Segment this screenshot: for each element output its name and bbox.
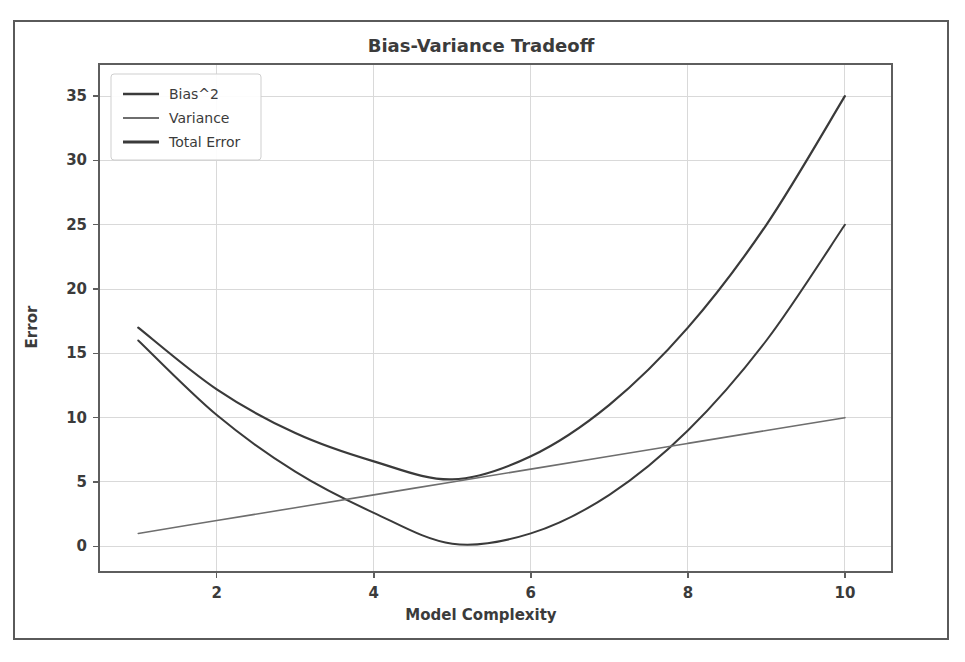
series-line-bias-2	[138, 225, 845, 545]
legend-label-2: Total Error	[168, 134, 241, 150]
y-tick-label: 30	[66, 151, 87, 169]
x-tick-label: 2	[212, 584, 222, 602]
legend-label-1: Variance	[169, 110, 229, 126]
figure-frame: 05101520253035246810 Bias^2VarianceTotal…	[13, 20, 949, 640]
y-axis-label: Error	[23, 305, 41, 348]
legend-label-0: Bias^2	[169, 86, 219, 102]
x-tick-label: 10	[834, 584, 855, 602]
bias-variance-chart: 05101520253035246810 Bias^2VarianceTotal…	[15, 22, 947, 638]
y-tick-label: 5	[77, 473, 87, 491]
y-tick-label: 35	[66, 87, 87, 105]
y-tick-label: 15	[66, 344, 87, 362]
x-axis-label: Model Complexity	[405, 606, 556, 624]
chart-title: Bias-Variance Tradeoff	[368, 35, 595, 56]
chart-ticks: 05101520253035246810	[66, 87, 855, 602]
chart-legend[interactable]: Bias^2VarianceTotal Error	[111, 74, 261, 160]
y-tick-label: 25	[66, 216, 87, 234]
y-tick-label: 0	[77, 537, 87, 555]
x-tick-label: 6	[526, 584, 536, 602]
y-tick-label: 10	[66, 409, 87, 427]
chart-series	[138, 96, 845, 545]
x-tick-label: 4	[369, 584, 379, 602]
y-tick-label: 20	[66, 280, 87, 298]
series-line-variance	[138, 418, 845, 534]
x-tick-label: 8	[683, 584, 693, 602]
